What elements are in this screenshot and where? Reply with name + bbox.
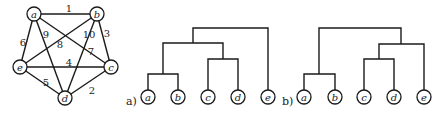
leaf-label: d xyxy=(391,92,397,103)
leaf-label: d xyxy=(235,92,241,103)
dendrogram-leaf-a: a xyxy=(297,90,311,104)
edge-weight-label: 6 xyxy=(20,37,26,48)
node-label: e xyxy=(17,62,23,73)
graph-node-d: d xyxy=(58,91,72,105)
dendrograms: a)abcdeb)abcde xyxy=(126,28,431,108)
dendrogram-b: b)abcde xyxy=(282,28,431,108)
dendrogram-leaf-d: d xyxy=(231,90,245,104)
dendrogram-merge-link xyxy=(364,59,394,90)
panel-label: b) xyxy=(282,95,293,108)
leaf-label: a xyxy=(145,92,151,103)
edge-weight-label: 8 xyxy=(57,39,63,50)
edge-weight-label: 9 xyxy=(43,29,49,40)
dendrogram-leaf-c: c xyxy=(201,90,215,104)
graph-node-a: a xyxy=(27,7,41,21)
edge-weight-label: 2 xyxy=(89,85,95,96)
leaf-label: c xyxy=(361,92,367,103)
leaf-label: b xyxy=(175,92,181,103)
dendrogram-leaf-a: a xyxy=(141,90,155,104)
graph-node-c: c xyxy=(104,60,118,74)
dendrogram-leaf-b: b xyxy=(171,90,185,104)
edge-weight-label: 5 xyxy=(43,77,49,88)
leaf-label: b xyxy=(332,92,338,103)
edge-weight-label: 4 xyxy=(66,57,72,68)
graph-node-e: e xyxy=(13,60,27,74)
diagram-svg: 12345678910 abcde a)abcdeb)abcde xyxy=(0,0,444,115)
dendrogram-leaf-d: d xyxy=(387,90,401,104)
leaf-label: e xyxy=(421,92,427,103)
node-label: a xyxy=(31,9,37,20)
edge-weight-label: 10 xyxy=(83,29,96,40)
panel-label: a) xyxy=(126,95,137,108)
dendrogram-leaf-e: e xyxy=(261,90,275,104)
node-label: c xyxy=(108,62,114,73)
dendrogram-leaf-e: e xyxy=(417,90,431,104)
node-label: d xyxy=(62,93,68,104)
edge-weight-label: 7 xyxy=(88,46,94,57)
diagram-canvas: 12345678910 abcde a)abcdeb)abcde xyxy=(0,0,444,115)
dendrogram-merge-link xyxy=(304,74,335,90)
edge-weight-label: 1 xyxy=(66,3,72,14)
dendrogram-merge-link xyxy=(379,44,424,90)
leaf-label: a xyxy=(301,92,307,103)
dendrogram-merge-link xyxy=(148,74,178,90)
dendrogram-leaf-b: b xyxy=(328,90,342,104)
leaf-label: e xyxy=(265,92,271,103)
edge-a-d xyxy=(34,14,65,98)
leaf-label: c xyxy=(205,92,211,103)
dendrogram-leaf-c: c xyxy=(357,90,371,104)
node-label: b xyxy=(94,9,100,20)
graph-node-b: b xyxy=(90,7,104,21)
dendrogram-merge-link xyxy=(208,59,238,90)
dendrogram-a: a)abcde xyxy=(126,28,275,108)
dendrogram-merge-link xyxy=(319,28,401,74)
edge-weight-label: 3 xyxy=(104,28,110,39)
